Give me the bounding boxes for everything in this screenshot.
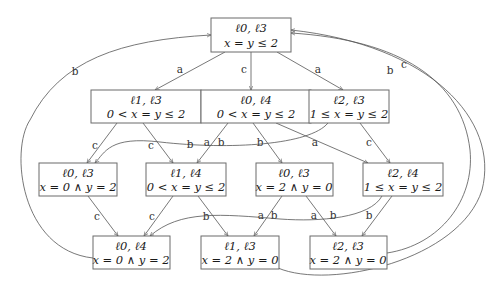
svg-text:c: c <box>401 58 407 70</box>
svg-text:ℓ1, ℓ4: ℓ1, ℓ4 <box>170 166 202 180</box>
svg-text:ℓ0, ℓ4: ℓ0, ℓ4 <box>115 239 147 253</box>
svg-text:ℓ0, ℓ4: ℓ0, ℓ4 <box>240 93 272 107</box>
state-node-9: ℓ1, ℓ3 x = 2 ∧ y = 0 <box>201 236 279 269</box>
state-node-8: ℓ0, ℓ4 x = 0 ∧ y = 2 <box>92 236 170 269</box>
svg-text:c: c <box>241 63 247 75</box>
edge-n4-n8: c <box>88 196 118 236</box>
svg-text:a: a <box>258 209 264 221</box>
svg-text:b: b <box>387 64 394 76</box>
edge-n3-n4 <box>95 123 328 163</box>
svg-text:a: a <box>204 136 210 148</box>
svg-text:b: b <box>72 65 79 77</box>
edge-n2-n5-b-label: b <box>218 136 225 148</box>
state-node-4: ℓ0, ℓ3 x = 0 ∧ y = 2 <box>39 163 117 196</box>
svg-text:c: c <box>94 210 100 222</box>
svg-text:1 ≤ x = y ≤ 2: 1 ≤ x = y ≤ 2 <box>310 107 388 121</box>
svg-text:a: a <box>312 136 318 148</box>
svg-text:ℓ1, ℓ3: ℓ1, ℓ3 <box>224 239 256 253</box>
svg-text:ℓ1, ℓ3: ℓ1, ℓ3 <box>130 93 162 107</box>
svg-text:x = 2 ∧ y = 0: x = 2 ∧ y = 0 <box>201 253 278 267</box>
svg-text:c: c <box>149 210 155 222</box>
edge-n7-n8 <box>150 196 382 236</box>
svg-text:ℓ0, ℓ3: ℓ0, ℓ3 <box>278 166 310 180</box>
state-node-3: ℓ2, ℓ3 1 ≤ x = y ≤ 2 <box>309 90 389 123</box>
edge-n6-n9-b-label: b <box>271 209 278 221</box>
svg-text:a: a <box>315 63 321 75</box>
svg-text:x = 0 ∧ y = 2: x = 0 ∧ y = 2 <box>92 253 169 267</box>
svg-text:0 < x = y ≤ 2: 0 < x = y ≤ 2 <box>107 107 185 121</box>
state-node-7: ℓ2, ℓ4 1 ≤ x = y ≤ 2 <box>363 163 443 196</box>
state-node-6: ℓ0, ℓ3 x = 2 ∧ y = 0 <box>255 163 333 196</box>
svg-text:c: c <box>366 136 372 148</box>
state-node-1: ℓ1, ℓ3 0 < x = y ≤ 2 <box>91 90 201 123</box>
svg-text:0 < x = y ≤ 2: 0 < x = y ≤ 2 <box>217 107 295 121</box>
svg-text:a: a <box>311 209 317 221</box>
svg-text:c: c <box>92 139 98 151</box>
edge-n3-n4-label: b <box>187 138 194 150</box>
svg-text:a: a <box>177 63 183 75</box>
svg-text:x = 2 ∧ y = 0: x = 2 ∧ y = 0 <box>255 180 332 194</box>
svg-text:1 ≤ x = y ≤ 2: 1 ≤ x = y ≤ 2 <box>364 180 442 194</box>
svg-text:ℓ2, ℓ3: ℓ2, ℓ3 <box>333 93 365 107</box>
edge-n6-n9: a <box>254 196 282 236</box>
edge-n7-n8-label: b <box>330 209 337 221</box>
svg-text:ℓ0, ℓ3: ℓ0, ℓ3 <box>62 166 94 180</box>
svg-text:b: b <box>366 209 373 221</box>
edge-n0-n3: a <box>277 52 343 90</box>
svg-text:0 < x = y ≤ 2: 0 < x = y ≤ 2 <box>147 180 225 194</box>
state-node-2: ℓ0, ℓ4 0 < x = y ≤ 2 <box>201 90 311 123</box>
svg-text:x = 0 ∧ y = 2: x = 0 ∧ y = 2 <box>39 180 116 194</box>
state-node-0: ℓ0, ℓ3 x = y ≤ 2 <box>211 18 291 52</box>
svg-text:x = y ≤ 2: x = y ≤ 2 <box>224 36 278 50</box>
svg-text:ℓ0, ℓ3: ℓ0, ℓ3 <box>235 21 267 35</box>
edge-n1-n4: c <box>87 123 117 163</box>
edge-n3-n7: c <box>360 123 390 163</box>
svg-text:ℓ2, ℓ4: ℓ2, ℓ4 <box>387 166 419 180</box>
state-node-10: ℓ2, ℓ3 x = 2 ∧ y = 0 <box>309 236 387 269</box>
svg-text:x = 2 ∧ y = 0: x = 2 ∧ y = 0 <box>309 253 386 267</box>
state-node-5: ℓ1, ℓ4 0 < x = y ≤ 2 <box>146 163 226 196</box>
svg-text:ℓ2, ℓ3: ℓ2, ℓ3 <box>332 239 364 253</box>
edge-n0-n2: c <box>241 52 251 90</box>
edge-n0-n1: a <box>155 52 225 90</box>
edge-n2-n7: a <box>276 123 368 163</box>
svg-text:b: b <box>257 136 264 148</box>
state-graph: a c a c c a b b a c c c <box>0 0 498 296</box>
